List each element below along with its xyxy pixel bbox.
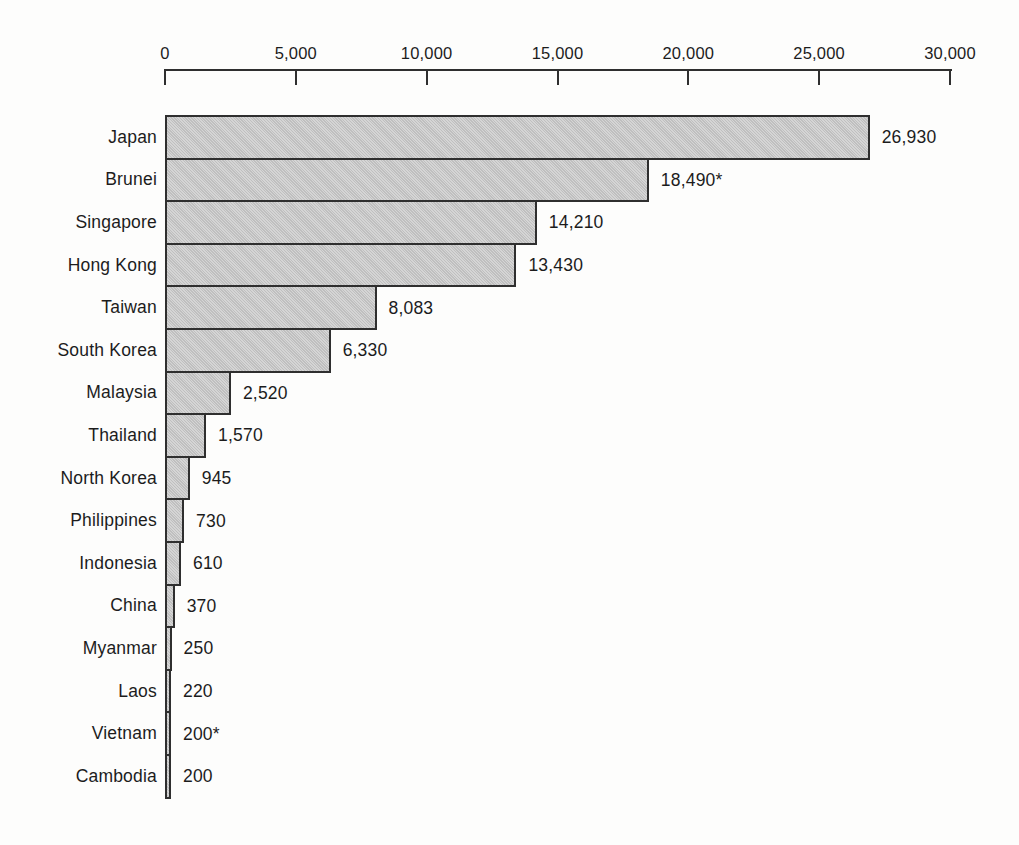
- category-label: Taiwan: [0, 285, 157, 330]
- bar-row: Laos220: [0, 669, 1019, 714]
- value-label: 200*: [183, 723, 220, 744]
- x-axis-tick: [687, 71, 689, 85]
- bar-row: China370: [0, 584, 1019, 629]
- value-label: 610: [193, 553, 223, 574]
- bar-row: Hong Kong13,430: [0, 243, 1019, 288]
- value-label: 730: [196, 510, 226, 531]
- bar-row: Vietnam200*: [0, 711, 1019, 756]
- value-label: 13,430: [528, 255, 583, 276]
- bar-row: Philippines730: [0, 498, 1019, 543]
- x-axis-tick: [426, 71, 428, 85]
- value-label: 1,570: [218, 425, 263, 446]
- horizontal-bar-chart: 05,00010,00015,00020,00025,00030,000 Jap…: [0, 0, 1019, 845]
- category-label: North Korea: [0, 456, 157, 501]
- category-label: South Korea: [0, 328, 157, 373]
- value-label: 945: [202, 468, 232, 489]
- x-axis-tick: [949, 71, 951, 85]
- category-label: Vietnam: [0, 711, 157, 756]
- bar-row: Thailand1,570: [0, 413, 1019, 458]
- value-label: 370: [187, 595, 217, 616]
- value-label: 6,330: [343, 340, 388, 361]
- category-label: Singapore: [0, 200, 157, 245]
- x-axis-tick: [295, 71, 297, 85]
- category-label: China: [0, 584, 157, 629]
- bar: [165, 711, 171, 756]
- category-label: Japan: [0, 115, 157, 160]
- x-axis-tick-label: 25,000: [793, 44, 845, 63]
- bar: [165, 243, 516, 288]
- bar-row: Indonesia610: [0, 541, 1019, 586]
- x-axis-tick: [164, 71, 166, 85]
- x-axis-tick: [557, 71, 559, 85]
- category-label: Thailand: [0, 413, 157, 458]
- bar: [165, 413, 206, 458]
- x-axis-tick: [818, 71, 820, 85]
- bar: [165, 584, 175, 629]
- bar-row: Singapore14,210: [0, 200, 1019, 245]
- bar: [165, 754, 171, 799]
- bar-row: Cambodia200: [0, 754, 1019, 799]
- bar: [165, 285, 377, 330]
- value-label: 200: [183, 766, 213, 787]
- value-label: 18,490*: [661, 169, 723, 190]
- bar-row: Japan26,930: [0, 115, 1019, 160]
- x-axis-tick-label: 0: [160, 44, 169, 63]
- bar: [165, 541, 181, 586]
- value-label: 14,210: [549, 212, 604, 233]
- bar: [165, 115, 870, 160]
- x-axis: 05,00010,00015,00020,00025,00030,000: [0, 0, 1019, 100]
- bar: [165, 158, 649, 203]
- category-label: Indonesia: [0, 541, 157, 586]
- category-label: Philippines: [0, 498, 157, 543]
- bar: [165, 371, 231, 416]
- value-label: 8,083: [389, 297, 434, 318]
- category-label: Brunei: [0, 158, 157, 203]
- bar-row: Brunei18,490*: [0, 158, 1019, 203]
- x-axis-tick-label: 10,000: [401, 44, 453, 63]
- bar: [165, 200, 537, 245]
- bar-row: Myanmar250: [0, 626, 1019, 671]
- x-axis-tick-label: 5,000: [275, 44, 317, 63]
- value-label: 220: [183, 681, 213, 702]
- category-label: Cambodia: [0, 754, 157, 799]
- x-axis-tick-label: 15,000: [532, 44, 584, 63]
- value-label: 2,520: [243, 382, 288, 403]
- category-label: Hong Kong: [0, 243, 157, 288]
- bar: [165, 456, 190, 501]
- category-label: Myanmar: [0, 626, 157, 671]
- bar: [165, 498, 184, 543]
- bar-row: Taiwan8,083: [0, 285, 1019, 330]
- x-axis-tick-label: 20,000: [662, 44, 714, 63]
- category-label: Laos: [0, 669, 157, 714]
- bar: [165, 669, 171, 714]
- value-label: 26,930: [882, 127, 937, 148]
- bar: [165, 626, 172, 671]
- bar-row: North Korea945: [0, 456, 1019, 501]
- category-label: Malaysia: [0, 371, 157, 416]
- bar-row: Malaysia2,520: [0, 371, 1019, 416]
- value-label: 250: [184, 638, 214, 659]
- x-axis-tick-label: 30,000: [924, 44, 976, 63]
- bar: [165, 328, 331, 373]
- bar-row: South Korea6,330: [0, 328, 1019, 373]
